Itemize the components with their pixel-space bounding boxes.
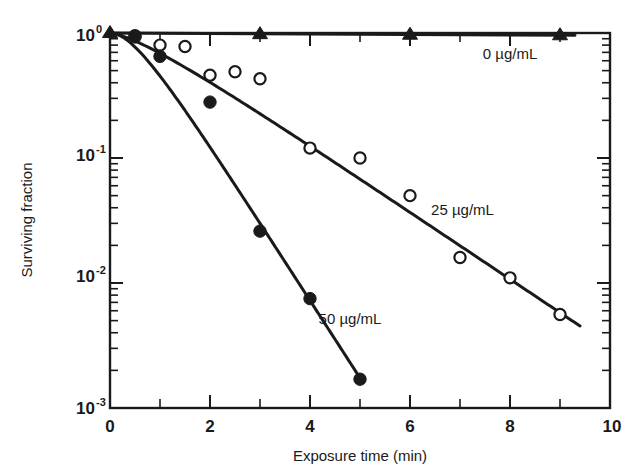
marker-25-g-ml-8	[404, 190, 415, 201]
x-tick-label-4: 4	[305, 417, 315, 436]
marker-50-g-ml-0	[129, 31, 141, 43]
y-tick-exponent-1e-2: -2	[96, 264, 106, 276]
x-tick-label-0: 0	[105, 417, 114, 436]
survival-curve-chart: 0 2 4 6 8 10 10 0 10 -1 10 -2 10 -3 Expo…	[0, 0, 644, 472]
y-tick-exponent-1e-3: -3	[96, 396, 106, 408]
marker-25-g-ml-4	[229, 66, 240, 77]
marker-25-g-ml-3	[204, 70, 215, 81]
y-tick-label-1e-1: 10	[76, 146, 95, 165]
marker-50-g-ml-4	[304, 292, 316, 304]
marker-25-g-ml-1	[154, 40, 165, 51]
x-tick-label-6: 6	[405, 417, 414, 436]
annotation-50-g-ml: 50 µg/mL	[319, 310, 382, 327]
x-tick-label-2: 2	[205, 417, 214, 436]
marker-50-g-ml-1	[154, 50, 166, 62]
y-tick-label-1e0: 10	[76, 26, 95, 45]
marker-50-g-ml-3	[254, 225, 266, 237]
y-tick-label-1e-3: 10	[76, 399, 95, 418]
marker-25-g-ml-6	[304, 143, 315, 154]
marker-25-g-ml-10	[504, 272, 515, 283]
y-tick-label-1e-2: 10	[76, 267, 95, 286]
marker-25-g-ml-11	[554, 309, 565, 320]
marker-50-g-ml-5	[354, 373, 366, 385]
y-tick-exponent-1e0: 0	[96, 23, 102, 35]
marker-25-g-ml-5	[254, 73, 265, 84]
marker-50-g-ml-2	[204, 96, 216, 108]
x-axis-title: Exposure time (min)	[293, 447, 427, 464]
y-axis-title: Surviving fraction	[18, 162, 35, 277]
annotation-0-g-ml: 0 µg/mL	[483, 45, 538, 62]
marker-25-g-ml-2	[179, 41, 190, 52]
x-tick-label-8: 8	[505, 417, 514, 436]
y-tick-exponent-1e-1: -1	[96, 143, 106, 155]
marker-25-g-ml-9	[454, 252, 465, 263]
marker-25-g-ml-7	[354, 152, 365, 163]
annotation-25-g-ml: 25 µg/mL	[431, 201, 494, 218]
x-tick-label-10: 10	[603, 417, 622, 436]
